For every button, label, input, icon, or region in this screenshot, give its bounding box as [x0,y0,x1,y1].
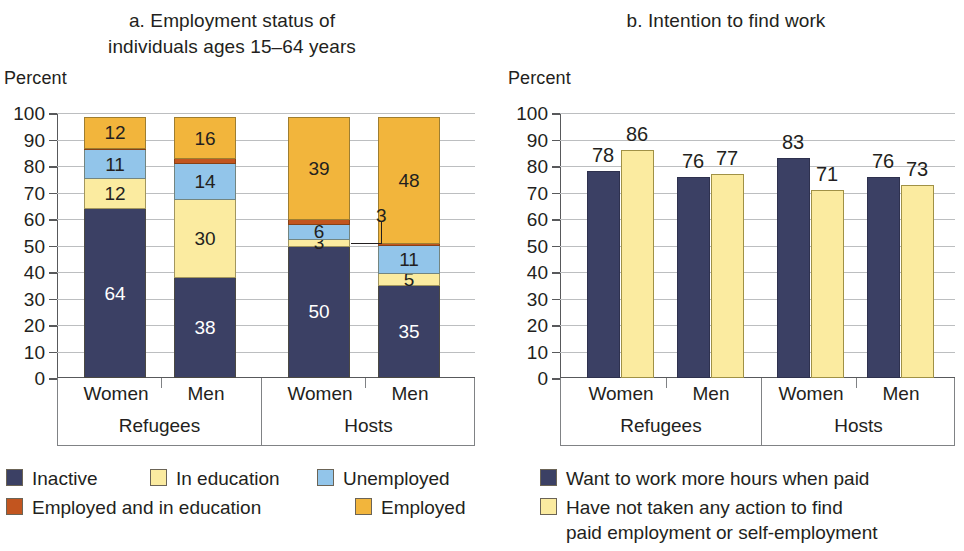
group-label: Hosts [261,416,476,435]
bar-segment-label: 11 [105,155,125,174]
bar-segment-label: 6 [314,222,325,241]
y-axis-tick-label: 100 [0,104,45,123]
panel-a-axis-unit: Percent [4,68,67,89]
bar-want-more-hours [867,177,900,378]
y-axis-tick-label: 40 [502,263,548,282]
bar-segment-unemployed: 11 [84,149,146,178]
bar-segment-label: 12 [104,184,125,203]
y-axis-tick [49,193,57,195]
y-axis-tick-label: 90 [0,130,45,149]
y-axis-tick [552,113,560,115]
bar-value-label: 78 [583,145,624,165]
y-axis-tick [552,299,560,301]
bar-no-action [621,150,654,378]
legend-label: Unemployed [343,466,450,491]
stacked-bar: 38301416 [174,118,236,378]
bar-no-action [711,174,744,378]
y-axis-tick [49,219,57,221]
bar-value-label: 77 [707,148,748,168]
y-axis-tick [49,352,57,354]
group-label: Refugees [561,416,761,435]
bar-segment-inactive: 35 [378,285,440,378]
bar-want-more-hours [777,158,810,378]
panel-b-intention-to-find-work: b. Intention to find work Percent 100908… [500,0,964,551]
bar-want-more-hours [587,171,620,378]
bar-segment-in-education: 12 [84,178,146,210]
panel-b-axis-unit: Percent [508,68,571,89]
legend-label: In education [176,466,280,491]
bar-value-label: 71 [807,164,848,184]
bar-segment-unemployed: 6 [288,224,350,240]
legend-swatch-in-education [150,469,167,486]
legend-swatch-employed [355,498,372,515]
legend-item-in-education: In education [150,466,280,491]
bar-segment-label: 12 [104,123,125,142]
y-axis-tick-label: 40 [0,263,45,282]
bar-segment-label: 35 [398,322,419,341]
legend-item-no-action: Have not taken any action to find paid e… [540,495,878,545]
legend-item-employed-and-in-education: Employed and in education [6,495,261,520]
y-axis-tick [552,140,560,142]
bar-segment-employed: 39 [288,117,350,220]
y-axis-tick [49,140,57,142]
annotation-leader-line [351,221,382,244]
bar-segment-label: 16 [194,129,215,148]
bar-segment-in-education: 30 [174,199,236,279]
bar-segment-label: 38 [194,318,215,337]
y-axis-tick [49,272,57,274]
y-axis-tick-label: 30 [502,289,548,308]
y-axis-tick-label: 10 [0,342,45,361]
panel-a-employment-status: a. Employment status of individuals ages… [0,0,500,551]
y-axis-tick-label: 70 [502,183,548,202]
y-axis-tick-label: 90 [502,130,548,149]
bar-segment-employed: 48 [378,117,440,244]
gridline [57,113,475,114]
y-axis-tick-label: 30 [0,289,45,308]
bar-segment-employed: 12 [84,117,146,149]
y-axis-tick-label: 60 [502,210,548,229]
bar-segment-employed: 16 [174,117,236,159]
legend-swatch-want-more-hours [540,469,557,486]
panel-a-title-line-2: individuals ages 15–64 years [0,34,482,60]
y-axis-tick-label: 0 [0,369,45,388]
y-axis-tick [552,378,560,380]
y-axis-tick [49,299,57,301]
y-axis-tick-label: 100 [502,104,548,123]
y-axis-tick-label: 10 [502,342,548,361]
legend-item-unemployed: Unemployed [317,466,450,491]
category-label: Men [841,384,961,403]
bar-segment-label: 50 [308,302,329,321]
bar-value-label: 83 [773,132,814,152]
panel-a-title-line-1: a. Employment status of [0,8,482,34]
group-label: Hosts [761,416,956,435]
y-axis-tick-label: 20 [502,316,548,335]
panel-a-category-axis: WomenMenWomenMenRefugeesHosts [57,378,475,446]
bar-segment-label: 14 [194,172,215,191]
stacked-bar: 503639 [288,118,350,378]
stacked-bar: 3551148 [378,118,440,378]
figure-container: a. Employment status of individuals ages… [0,0,964,551]
legend-swatch-inactive [6,469,23,486]
y-axis-tick-label: 20 [0,316,45,335]
y-axis-tick [49,113,57,115]
panel-b-category-axis: WomenMenWomenMenRefugeesHosts [560,378,955,446]
stacked-bar: 64121112 [84,118,146,378]
y-axis-tick [552,166,560,168]
legend-label: Employed [381,495,466,520]
gridline [560,113,955,114]
y-axis-tick [49,378,57,380]
bar-segment-unemployed: 11 [378,245,440,274]
panel-a-plot-area: 1009080706050403020100641211123830141650… [57,113,475,378]
bar-segment-label: 64 [104,284,125,303]
y-axis-tick [552,193,560,195]
legend-item-employed: Employed [355,495,466,520]
bar-segment-in-education: 5 [378,273,440,286]
panel-b-plot-area: 10090807060504030201007886767783717673 [560,113,955,378]
bar-segment-label: 39 [308,159,329,178]
y-axis-tick-label: 80 [502,157,548,176]
y-axis-tick-label: 50 [0,236,45,255]
y-axis-tick [49,166,57,168]
y-axis-tick-label: 60 [0,210,45,229]
bar-value-label: 86 [617,124,658,144]
category-label: Men [350,384,470,403]
